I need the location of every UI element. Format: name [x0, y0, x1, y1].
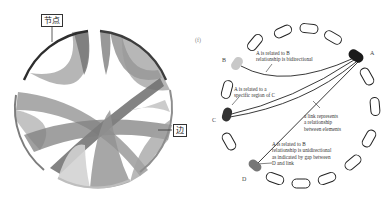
ring-node: [343, 153, 363, 171]
annotation-ab: A is related to B relationship is bidire…: [256, 50, 313, 63]
ring-node: [317, 171, 337, 186]
node-callout: 节点: [41, 14, 63, 27]
panel-tag: (f): [195, 37, 201, 43]
annotation-link: a link represents a relationship between…: [304, 113, 341, 132]
label-a: A: [370, 50, 374, 56]
ring-node: [370, 97, 381, 116]
ring-node: [265, 171, 285, 186]
chord-diagram: [0, 0, 194, 201]
relationship-diagram-panel: (f) A B C D A is related to B relationsh…: [194, 0, 388, 201]
annotation-ad: A is related to B relationship is unidir…: [272, 141, 331, 167]
relationship-diagram: [194, 0, 388, 201]
chord-ribbon: [122, 36, 170, 90]
ring-node: [359, 66, 376, 86]
annotation-ac: A is related to a specific region of C: [234, 86, 275, 99]
ring-node: [221, 131, 238, 151]
ring-node: [300, 23, 319, 34]
label-c: C: [212, 117, 216, 123]
edge-callout: 边: [173, 124, 187, 137]
ring-node: [323, 29, 343, 46]
node-c: [221, 107, 233, 123]
chord-diagram-panel: 节点 边: [0, 0, 194, 201]
label-d: D: [242, 176, 246, 182]
label-b: B: [222, 57, 226, 63]
ring-node: [292, 179, 310, 188]
chord-ribbon: [100, 31, 111, 75]
ring-node: [361, 128, 378, 148]
ring-node: [273, 24, 293, 40]
node-b: [229, 55, 244, 72]
ring-node: [220, 80, 233, 100]
